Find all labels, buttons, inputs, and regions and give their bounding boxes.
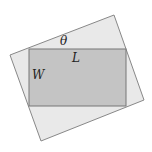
length-label: L	[71, 51, 80, 65]
rotated-rectangle-diagram: θ L W	[0, 0, 152, 152]
width-label: W	[32, 68, 46, 82]
diagram-canvas: θ L W	[0, 0, 152, 152]
theta-label: θ	[60, 34, 68, 48]
